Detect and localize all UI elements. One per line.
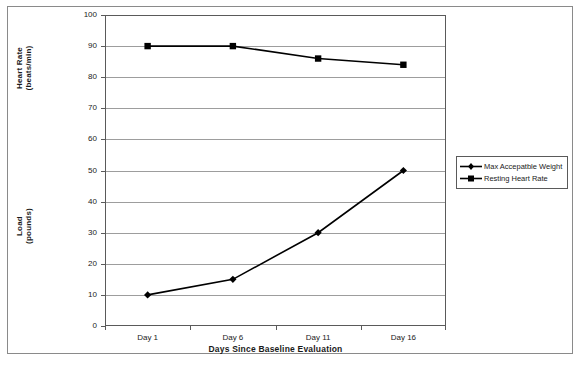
legend-label-resting-heart-rate: Resting Heart Rate bbox=[484, 174, 548, 183]
y-tick-label-40: 40 bbox=[88, 198, 97, 206]
y-tick-label-60: 60 bbox=[88, 135, 97, 143]
y-axis-title-load-line1: Load bbox=[15, 216, 24, 236]
x-tick-mark-0 bbox=[105, 326, 106, 330]
y-axis-title-heart-rate-line2: (beats/min) bbox=[24, 28, 33, 108]
gridline-40 bbox=[106, 202, 445, 203]
y-tick-label-70: 70 bbox=[88, 104, 97, 112]
plot-area bbox=[105, 15, 446, 326]
x-tick-label-day-1: Day 1 bbox=[105, 333, 190, 342]
y-tick-label-20: 20 bbox=[88, 260, 97, 268]
x-axis-title: Days Since Baseline Evaluation bbox=[105, 344, 446, 354]
legend: Max Accepatble Weight Resting Heart Rate bbox=[456, 156, 568, 189]
gridline-20 bbox=[106, 264, 445, 265]
legend-item-max-acceptable-weight: Max Accepatble Weight bbox=[460, 161, 563, 172]
x-tick-mark-1 bbox=[190, 326, 191, 330]
y-tick-label-10: 10 bbox=[88, 291, 97, 299]
y-tick-label-30: 30 bbox=[88, 229, 97, 237]
x-tick-label-day-16: Day 16 bbox=[361, 333, 446, 342]
y-axis-title-load-line2: (pounds) bbox=[24, 188, 33, 264]
y-axis-title-heart-rate: Heart Rate (beats/min) bbox=[15, 28, 33, 108]
gridline-80 bbox=[106, 77, 445, 78]
y-tick-label-50: 50 bbox=[88, 167, 97, 175]
gridline-10 bbox=[106, 295, 445, 296]
x-tick-label-day-11: Day 11 bbox=[276, 333, 361, 342]
chart-figure-frame: 1009080706050403020100 Heart Rate (beats… bbox=[7, 6, 573, 354]
y-tick-label-90: 90 bbox=[88, 42, 97, 50]
diamond-marker-icon bbox=[460, 161, 482, 172]
x-tick-mark-2 bbox=[276, 326, 277, 330]
x-tick-label-day-6: Day 6 bbox=[190, 333, 275, 342]
y-tick-label-80: 80 bbox=[88, 73, 97, 81]
legend-label-max-acceptable-weight: Max Accepatble Weight bbox=[484, 162, 562, 171]
x-tick-mark-3 bbox=[361, 326, 362, 330]
gridline-70 bbox=[106, 108, 445, 109]
x-tick-mark-4 bbox=[445, 326, 446, 330]
y-tick-label-0: 0 bbox=[93, 322, 97, 330]
gridline-60 bbox=[106, 139, 445, 140]
y-axis-title-heart-rate-line1: Heart Rate bbox=[15, 47, 24, 89]
y-tick-label-100: 100 bbox=[84, 11, 97, 19]
gridline-50 bbox=[106, 171, 445, 172]
gridline-90 bbox=[106, 46, 445, 47]
y-axis-title-load: Load (pounds) bbox=[15, 188, 33, 264]
square-marker-icon bbox=[460, 173, 482, 184]
legend-item-resting-heart-rate: Resting Heart Rate bbox=[460, 173, 563, 184]
gridline-30 bbox=[106, 233, 445, 234]
